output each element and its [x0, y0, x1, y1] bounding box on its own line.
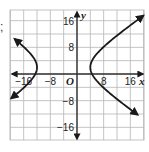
- x-tick-label: 16: [125, 76, 137, 87]
- origin-label: O: [66, 75, 74, 87]
- x-tick-label: −16: [15, 76, 32, 87]
- x-axis-label: x: [138, 75, 145, 87]
- hyperbola-graph: −16−8816168−8−16xyO: [0, 0, 149, 152]
- x-tick-label: 8: [101, 76, 107, 87]
- tick-labels: −16−8816168−8−16xyO: [15, 9, 145, 133]
- y-tick-label: 16: [63, 16, 75, 27]
- y-tick-label: −8: [63, 96, 75, 107]
- y-axis-label: y: [79, 9, 86, 21]
- x-tick-label: −8: [45, 76, 57, 87]
- y-tick-label: −16: [57, 122, 74, 133]
- y-tick-label: 8: [68, 42, 74, 53]
